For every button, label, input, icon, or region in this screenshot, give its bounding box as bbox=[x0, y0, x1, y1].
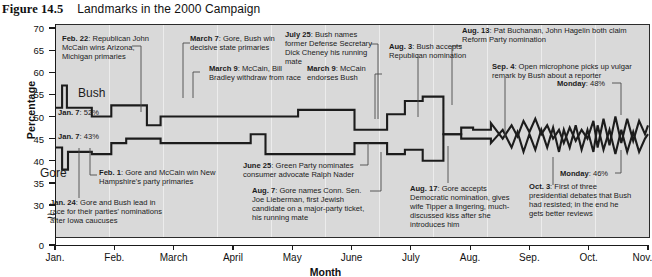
annotation-aug-3: Aug. 3: Bush accepts Republican nominati… bbox=[389, 42, 473, 60]
annotation-aug-13: Aug. 13: Pat Buchanan, John Hagelin both… bbox=[462, 26, 638, 44]
annotation-sep-4: Sep. 4: Open microphone picks up vulgar … bbox=[492, 62, 644, 80]
point-label-monday-48: Monday: 48% bbox=[557, 79, 605, 88]
series-label-bush: Bush bbox=[78, 86, 105, 100]
annotation-march-7: March 7: Gore, Bush win decisive state p… bbox=[190, 34, 276, 52]
annotation-feb-1: Feb. 1: Gore and McCain win New Hampshir… bbox=[99, 168, 217, 186]
point-label-monday-46: Monday: 46% bbox=[560, 169, 608, 178]
annotation-july-25: July 25: Bush names former Defense Secre… bbox=[285, 30, 377, 66]
annotation-aug-7: Aug. 7: Gore names Conn. Sen. Joe Lieber… bbox=[252, 186, 372, 222]
annotation-oct-3: Oct. 3: First of three presidential deba… bbox=[529, 182, 633, 218]
annotation-june-25: June 25: Green Party nominates consumer … bbox=[243, 161, 361, 179]
annotation-feb-22: Feb. 22: Republican John McCain wins Ari… bbox=[62, 34, 152, 61]
series-label-gore: Gore bbox=[40, 166, 67, 180]
annotation-march-9-withdraw: March 9: McCain, Bill Bradley withdraw f… bbox=[209, 64, 305, 82]
point-label-jan7-gore: Jan. 7: 43% bbox=[58, 132, 99, 141]
annotation-jan-24: Jan. 24: Gore and Bush lead in race for … bbox=[50, 198, 172, 225]
annotation-aug-17: Aug. 17: Gore accepts Democratic nominat… bbox=[410, 184, 512, 229]
point-label-jan7-bush: Jan. 7: 52% bbox=[58, 108, 99, 117]
annotation-march-9-endorse: March 9: McCain endorses Bush bbox=[307, 64, 369, 82]
